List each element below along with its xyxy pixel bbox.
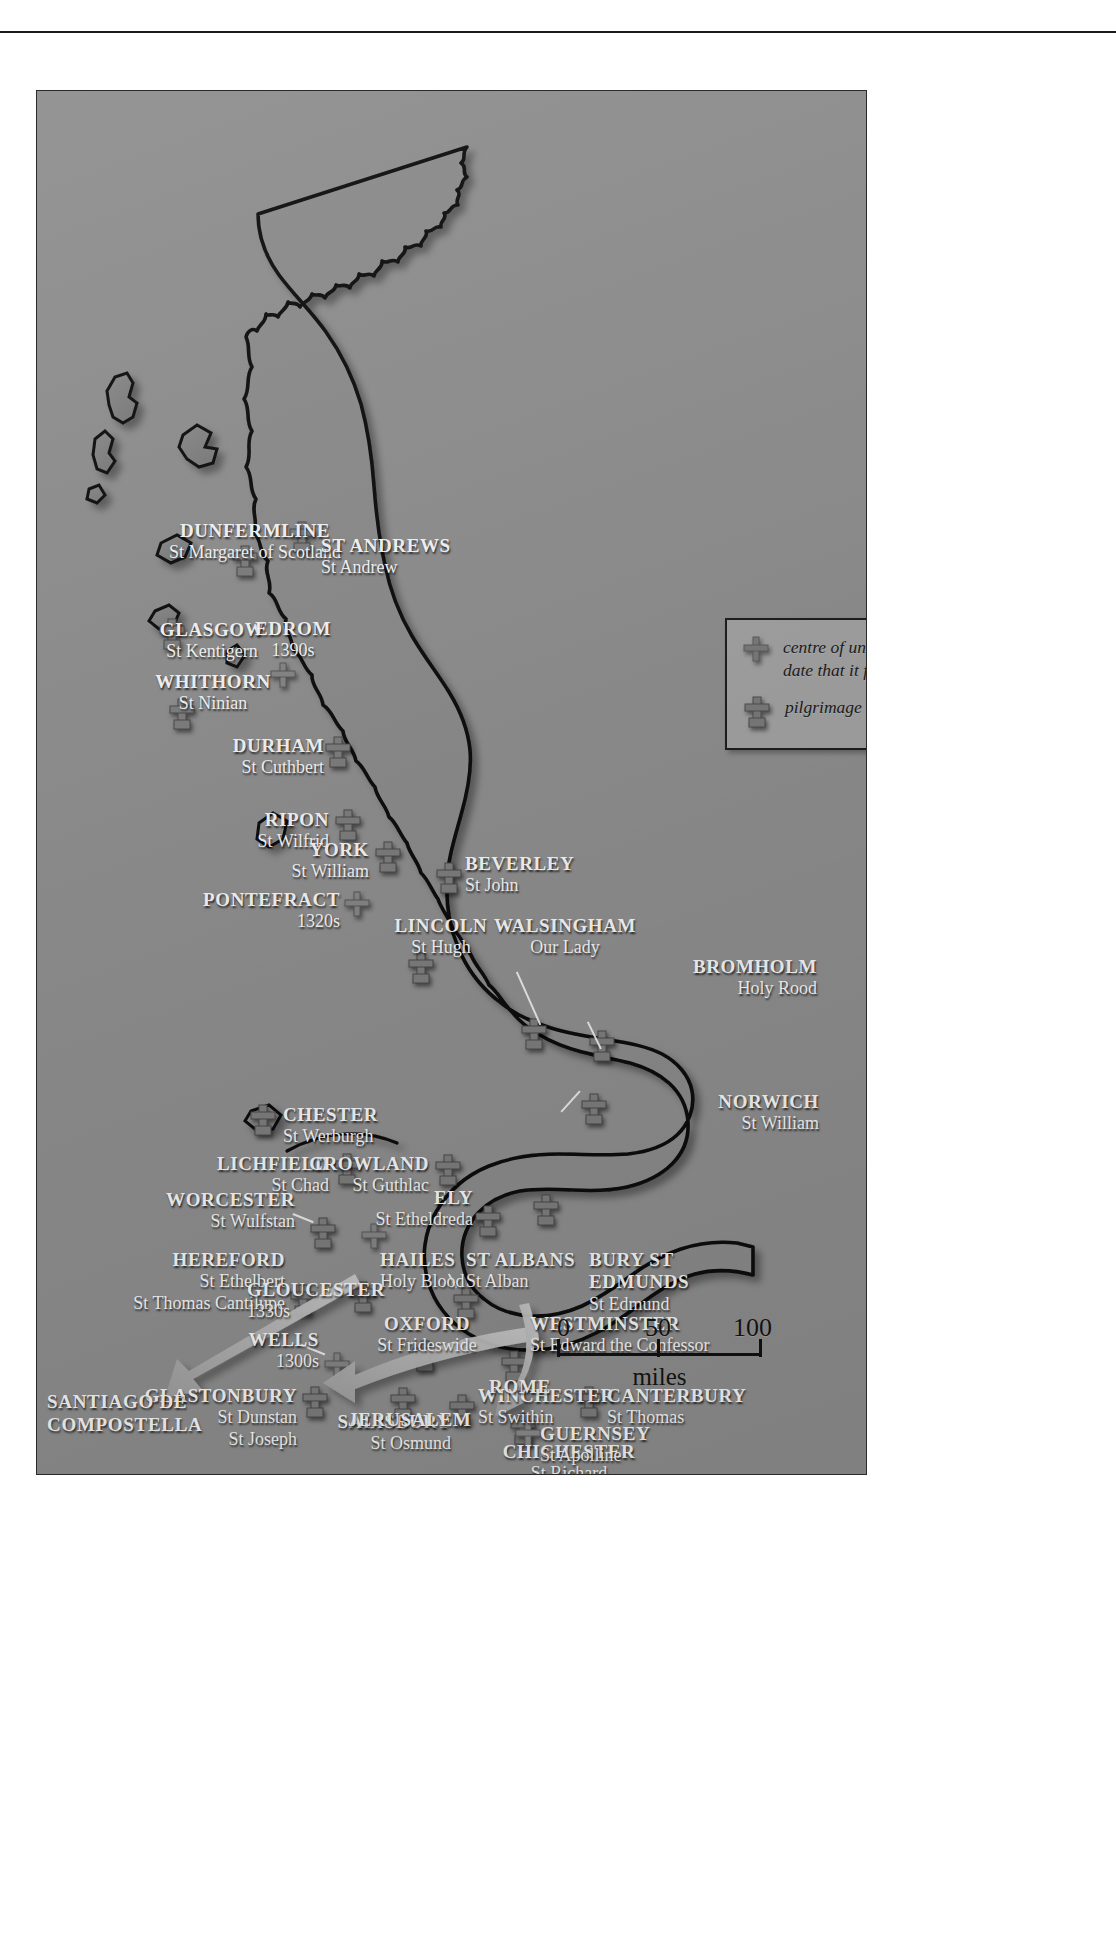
- place-town-st-albans: ST ALBANS: [466, 1249, 575, 1271]
- place-label-dunfermline: DUNFERMLINE St Margaret of Scotland: [169, 520, 341, 564]
- place-town-chester: CHESTER: [283, 1104, 378, 1126]
- pilgrimage-cross-icon: [743, 696, 771, 728]
- route-label-santiago-line2: COMPOSTELLA: [47, 1414, 203, 1437]
- place-saint-lincoln: St Hugh: [395, 937, 488, 959]
- place-town-durham: DURHAM: [204, 735, 324, 757]
- place-label-lincoln: LINCOLN St Hugh: [395, 915, 488, 959]
- page-top-rule: [0, 31, 1116, 33]
- place-label-oxford: OXFORD St Frideswide: [377, 1313, 477, 1357]
- place-saint-guernsey: St Apolline: [540, 1445, 650, 1467]
- legend-text-unofficial-1: centre of unofficial cult with: [783, 636, 867, 659]
- place-town-worcester: WORCESTER: [147, 1189, 295, 1211]
- place-town-dunfermline: DUNFERMLINE: [169, 520, 341, 542]
- place-saint-wells: 1300s: [185, 1351, 319, 1373]
- place-town-gloucester: GLOUCESTER: [247, 1279, 385, 1301]
- place-saint-durham: St Cuthbert: [204, 757, 324, 779]
- place-label-edrom: EDROM 1390s: [255, 618, 331, 662]
- route-label-rome-line1: ROME: [489, 1376, 551, 1399]
- place-label-worcester: WORCESTER St Wulfstan: [147, 1189, 295, 1233]
- place-town-pontefract: PONTEFRACT: [192, 889, 340, 911]
- scale-ticks: [557, 1339, 762, 1357]
- place-saint-oxford: St Frideswide: [377, 1335, 477, 1357]
- place-saint-york: St William: [234, 861, 369, 883]
- place-town-oxford: OXFORD: [377, 1313, 477, 1335]
- place-saint-dunfermline: St Margaret of Scotland: [169, 542, 341, 564]
- place-town-walsingham: WALSINGHAM: [494, 915, 636, 937]
- place-saint-whithorn: St Ninian: [155, 693, 271, 715]
- place-label-gloucester: GLOUCESTER 1330s: [247, 1279, 385, 1323]
- place-town-whithorn: WHITHORN: [155, 671, 271, 693]
- route-label-jerusalem-line1: JERUSALEM: [348, 1409, 471, 1432]
- scale-unit-label: miles: [557, 1363, 762, 1391]
- scale-bar: 0 50 100 miles: [557, 1313, 772, 1391]
- place-label-st-albans: ST ALBANS St Alban: [466, 1249, 575, 1293]
- place-saint-ely: St Etheldreda: [337, 1209, 473, 1231]
- place-label-whithorn: WHITHORN St Ninian: [155, 671, 271, 715]
- place-saint-pontefract: 1320s: [192, 911, 340, 933]
- place-town-edrom: EDROM: [255, 618, 331, 640]
- place-label-ely: ELY St Etheldreda: [337, 1187, 473, 1231]
- place-town-beverley: BEVERLEY: [465, 853, 574, 875]
- place-saint-edrom: 1390s: [255, 640, 331, 662]
- place-saint-bromholm: Holy Rood: [597, 978, 817, 1000]
- place-saint-hailes: Holy Blood: [380, 1271, 465, 1293]
- scale-numbers: 0 50 100: [557, 1313, 772, 1339]
- map-plate: centre of unofficial cult with date that…: [36, 90, 867, 1475]
- place-label-chester: CHESTER St Werburgh: [283, 1104, 378, 1148]
- place-saint-salisbury: St Osmund: [303, 1433, 451, 1455]
- place-town-york: YORK: [234, 839, 369, 861]
- place-town-wells: WELLS: [185, 1329, 319, 1351]
- place-town-hereford: HEREFORD: [97, 1249, 285, 1271]
- place-town-norwich: NORWICH: [597, 1091, 819, 1113]
- scale-tick-mark-0: [557, 1339, 560, 1357]
- place-label-beverley: BEVERLEY St John: [465, 853, 574, 897]
- place-saint-worcester: St Wulfstan: [147, 1211, 295, 1233]
- legend-entry-pilgrimage: pilgrimage centre: [727, 682, 867, 728]
- place-label-durham: DURHAM St Cuthbert: [204, 735, 324, 779]
- legend-text-unofficial-2: date that it flourished: [783, 659, 867, 682]
- place-label-glasgow: GLASGOW St Kentigern: [160, 619, 265, 663]
- route-label-jerusalem: JERUSALEM: [348, 1409, 471, 1432]
- place-saint-st-albans: St Alban: [466, 1271, 575, 1293]
- place-label-york: YORK St William: [234, 839, 369, 883]
- place-town-crowland: CROWLAND: [285, 1153, 429, 1175]
- place-saint-chester: St Werburgh: [283, 1126, 378, 1148]
- place-label-st-andrews: ST ANDREWS St Andrew: [321, 535, 451, 579]
- place-town-lincoln: LINCOLN: [395, 915, 488, 937]
- place-saint-beverley: St John: [465, 875, 574, 897]
- place-saint-gloucester: 1330s: [247, 1301, 385, 1323]
- place-saint-norwich: St William: [597, 1113, 819, 1135]
- route-label-santiago-line1: SANTIAGO DE: [47, 1391, 203, 1414]
- place-town-bromholm: BROMHOLM: [597, 956, 817, 978]
- place-town2-bury-st-edmunds: EDMUNDS: [589, 1271, 689, 1293]
- plain-cross-icon: [743, 636, 769, 662]
- place-town-ely: ELY: [337, 1187, 473, 1209]
- place-label-walsingham: WALSINGHAM Our Lady: [494, 915, 636, 959]
- place-saint-glasgow: St Kentigern: [160, 641, 265, 663]
- map-legend: centre of unofficial cult with date that…: [725, 618, 867, 750]
- place-town-hailes: HAILES: [380, 1249, 465, 1271]
- place-town-st-andrews: ST ANDREWS: [321, 535, 451, 557]
- place-label-bromholm: BROMHOLM Holy Rood: [597, 956, 817, 1000]
- place-label-hailes: HAILES Holy Blood: [380, 1249, 465, 1293]
- place-town-glasgow: GLASGOW: [160, 619, 265, 641]
- place-saint-st-andrews: St Andrew: [321, 557, 451, 579]
- legend-text-pilgrimage: pilgrimage centre: [785, 696, 867, 719]
- place-label-pontefract: PONTEFRACT 1320s: [192, 889, 340, 933]
- place-label-norwich: NORWICH St William: [597, 1091, 819, 1135]
- place-label-bury-st-edmunds: BURY ST EDMUNDS St Edmund: [589, 1249, 689, 1315]
- scale-tick-mark-50: [657, 1339, 660, 1357]
- place-town-bury-st-edmunds: BURY ST: [589, 1249, 689, 1271]
- place-label-guernsey: GUERNSEY St Apolline: [540, 1423, 650, 1467]
- route-label-santiago: SANTIAGO DE COMPOSTELLA: [47, 1391, 203, 1437]
- place-town-ripon: RIPON: [204, 809, 329, 831]
- route-label-rome: ROME: [489, 1376, 551, 1399]
- place-town-guernsey: GUERNSEY: [540, 1423, 650, 1445]
- legend-entry-unofficial: centre of unofficial cult with date that…: [727, 620, 867, 682]
- place-label-wells: WELLS 1300s: [185, 1329, 319, 1373]
- scale-tick-mark-100: [759, 1339, 762, 1357]
